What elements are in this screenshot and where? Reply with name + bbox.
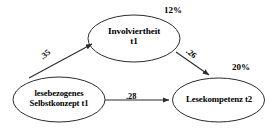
path-diagram: Involviertheit t1 lesebezogenes Selbstko…: [0, 0, 278, 134]
path-arrow-sk-to-inv: [29, 44, 92, 78]
node-label-selbstkonzept: lesebezogenes Selbstkonzept t1: [14, 89, 104, 108]
node-label-lesekompetenz: Lesekompetenz t2: [173, 95, 265, 105]
node-label-involviertheit-line2: t1: [89, 36, 179, 46]
path-coefficient-sk-to-lk: .28: [126, 92, 136, 101]
node-label-involviertheit-line1: Involviertheit: [89, 26, 179, 36]
node-label-selbstkonzept-line2: Selbstkonzept t1: [14, 99, 104, 109]
variance-explained-involviertheit: 12%: [164, 5, 182, 15]
node-label-involviertheit: Involviertheit t1: [89, 26, 179, 47]
node-label-lesekompetenz-line1: Lesekompetenz t2: [173, 95, 265, 105]
variance-explained-lesekompetenz: 20%: [232, 62, 250, 72]
